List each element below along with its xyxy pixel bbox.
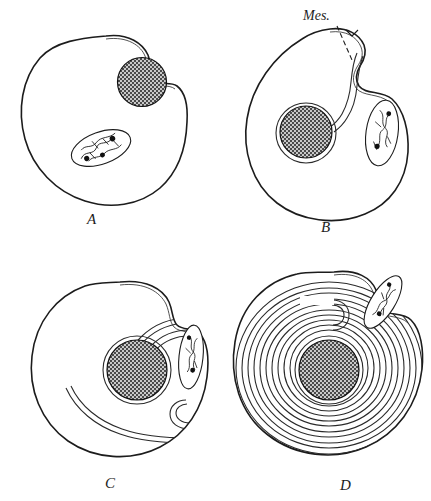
mesosome-label: Mes. <box>302 8 330 23</box>
panel-c-mesosome-body <box>103 336 171 404</box>
panel-letter-c: C <box>105 475 116 491</box>
panel-letter-d: D <box>339 477 351 493</box>
lamella-break-d <box>300 296 334 305</box>
panel-b-mesosome-body <box>276 103 336 163</box>
mesosome-figure: A <box>0 0 431 501</box>
mesosome-dark-body-a <box>118 58 167 107</box>
mesosome-dark-body-c <box>107 340 167 400</box>
figure-root: A <box>0 0 431 501</box>
mesosome-dark-body-d <box>299 340 359 400</box>
panel-a-mesosome-body <box>118 58 167 107</box>
mesosome-dark-body-b <box>280 106 332 158</box>
panel-letter-a: A <box>86 211 97 227</box>
panel-d-mesosome-body <box>295 336 363 404</box>
panel-letter-b: B <box>321 219 331 235</box>
